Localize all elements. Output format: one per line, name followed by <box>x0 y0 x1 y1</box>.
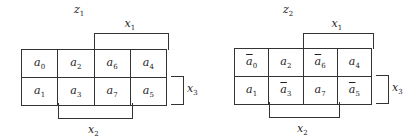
map-cell: a0 <box>22 50 58 78</box>
map-cell: a6 <box>94 50 130 78</box>
x2-bracket <box>269 102 340 118</box>
x3-label: x3 <box>392 81 403 96</box>
map-cell: a3 <box>58 78 94 106</box>
map-cell: a4 <box>130 50 166 78</box>
map-cell: a3 <box>269 77 303 105</box>
x2-label: x2 <box>88 123 99 138</box>
map-title: z2 <box>283 3 293 18</box>
map-cell: a1 <box>235 77 269 105</box>
x3-label: x3 <box>187 82 198 97</box>
x3-bracket <box>171 76 184 105</box>
x2-label: x2 <box>297 122 308 137</box>
map-title: z1 <box>74 3 84 18</box>
map-cell: a7 <box>303 77 337 105</box>
karnaugh-grid: a0a2a6a4a1a3a7a5 <box>234 48 372 105</box>
x1-label: x1 <box>332 17 343 32</box>
map-cell: a4 <box>337 49 371 77</box>
map-cell: a0 <box>235 49 269 77</box>
map-cell: a2 <box>269 49 303 77</box>
x2-bracket <box>58 103 133 119</box>
x1-bracket <box>303 33 374 49</box>
map-cell: a6 <box>303 49 337 77</box>
karnaugh-grid: a0a2a6a4a1a3a7a5 <box>21 49 167 106</box>
karnaugh-map-z1: z1a0a2a6a4a1a3a7a5x1x3x2 <box>0 0 210 139</box>
map-cell: a7 <box>94 78 130 106</box>
x3-bracket <box>376 75 389 104</box>
map-cell: a5 <box>130 78 166 106</box>
map-cell: a5 <box>337 77 371 105</box>
x1-label: x1 <box>125 17 136 32</box>
karnaugh-map-z2: z2a0a2a6a4a1a3a7a5x1x3x2 <box>213 0 420 139</box>
map-cell: a1 <box>22 78 58 106</box>
x1-bracket <box>94 33 169 50</box>
map-cell: a2 <box>58 50 94 78</box>
